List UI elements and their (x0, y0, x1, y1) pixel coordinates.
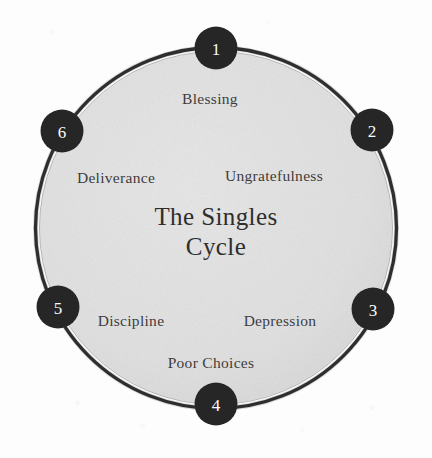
stage-label-ungratefulness: Ungratefulness (225, 167, 323, 185)
stage-label-layer: Blessing Ungratefulness Depression Poor … (0, 0, 432, 458)
stage-label-blessing: Blessing (182, 90, 238, 108)
cycle-diagram-page: 1 2 3 4 5 6 Blessing (0, 0, 432, 458)
stage-label-depression: Depression (244, 312, 317, 330)
center-title-line-1: The Singles (154, 202, 277, 232)
stage-label-poor-choices: Poor Choices (168, 354, 255, 372)
stage-label-discipline: Discipline (98, 312, 165, 330)
diagram-center-title: The Singles Cycle (154, 202, 277, 261)
stage-label-deliverance: Deliverance (77, 169, 155, 187)
center-title-line-2: Cycle (154, 231, 277, 261)
